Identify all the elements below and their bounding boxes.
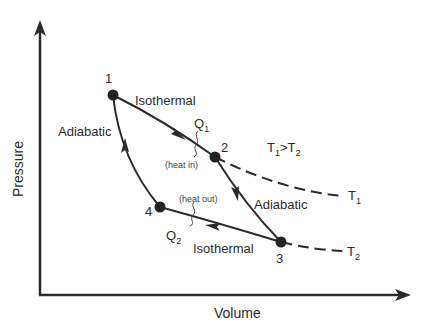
process-4-1-label: Adiabatic [58, 124, 112, 139]
t1-label: T1 [348, 188, 361, 206]
process-3-4-label: Isothermal [193, 241, 254, 256]
point-2 [210, 152, 221, 163]
y-axis-label: Pressure [10, 141, 26, 197]
point-2-label: 2 [221, 140, 228, 155]
arrow-3-4-icon [205, 223, 220, 231]
isotherm-t2-dashed [281, 242, 343, 251]
q2-note: (heat out) [179, 194, 218, 204]
x-axis-label: Volume [214, 305, 261, 321]
point-4-label: 4 [145, 204, 152, 219]
process-4-1-adiabatic [113, 95, 160, 207]
point-3-label: 3 [276, 251, 283, 266]
q2-label: Q2 [166, 228, 181, 246]
t2-label: T2 [347, 244, 360, 262]
q1-label: Q1 [194, 116, 209, 134]
t1-relation: T1>T2 [267, 140, 301, 158]
point-4 [155, 202, 166, 213]
process-1-2-label: Isothermal [135, 93, 196, 108]
point-1 [108, 90, 119, 101]
point-1-label: 1 [105, 71, 112, 86]
q2-squiggle-icon-path [190, 202, 195, 226]
process-2-3-label: Adiabatic [254, 197, 308, 212]
carnot-diagram: Volume Pressure 1 2 3 4 Isothermal Adiab… [0, 0, 426, 333]
q1-note: (heat in) [165, 160, 198, 170]
point-3 [276, 237, 287, 248]
